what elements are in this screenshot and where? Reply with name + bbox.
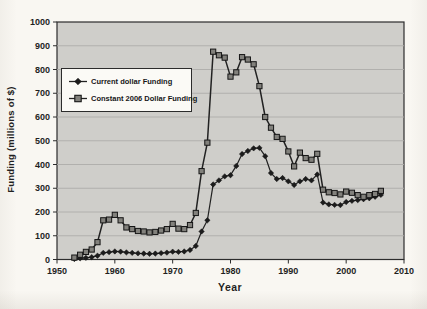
x-tick-label: 1990 xyxy=(278,266,298,276)
legend-label-current-dollar: Current dollar Funding xyxy=(91,77,172,86)
square-marker xyxy=(245,57,250,62)
square-marker xyxy=(349,190,354,195)
y-tick-label: 400 xyxy=(35,160,50,170)
square-marker xyxy=(193,210,198,215)
chart-figure: 0100200300400500600700800900100019501960… xyxy=(0,0,427,309)
square-marker xyxy=(83,249,88,254)
square-marker xyxy=(338,192,343,197)
square-marker-icon xyxy=(69,94,87,103)
legend-label-constant-dollar: Constant 2006 Dollar Funding xyxy=(91,94,197,103)
square-marker xyxy=(112,212,117,217)
square-marker xyxy=(216,53,221,58)
x-axis-title: Year xyxy=(155,281,305,293)
square-marker xyxy=(170,221,175,226)
square-marker xyxy=(118,218,123,223)
y-tick-label: 500 xyxy=(35,136,50,146)
y-tick-label: 700 xyxy=(35,88,50,98)
y-tick-label: 100 xyxy=(35,231,50,241)
legend-entry-constant-dollar: Constant 2006 Dollar Funding xyxy=(69,94,191,103)
square-marker xyxy=(315,151,320,156)
x-tick-label: 1950 xyxy=(47,266,67,276)
square-marker xyxy=(372,191,377,196)
square-marker xyxy=(106,217,111,222)
y-tick-label: 600 xyxy=(35,112,50,122)
square-marker xyxy=(78,252,83,257)
square-marker xyxy=(130,227,135,232)
square-marker xyxy=(378,188,383,193)
square-marker xyxy=(286,149,291,154)
square-marker xyxy=(239,55,244,60)
square-marker xyxy=(251,62,256,67)
square-marker xyxy=(268,125,273,130)
x-tick-label: 1970 xyxy=(163,266,183,276)
square-marker xyxy=(164,227,169,232)
square-marker xyxy=(176,226,181,231)
square-marker xyxy=(332,190,337,195)
square-marker xyxy=(257,84,262,89)
legend-entry-current-dollar: Current dollar Funding xyxy=(69,77,191,86)
square-marker xyxy=(280,136,285,141)
square-marker xyxy=(228,74,233,79)
y-tick-label: 200 xyxy=(35,207,50,217)
plot-canvas: 0100200300400500600700800900100019501960… xyxy=(0,0,427,309)
square-marker xyxy=(159,228,164,233)
square-marker xyxy=(101,218,106,223)
square-marker xyxy=(95,240,100,245)
square-marker xyxy=(263,114,268,119)
square-marker xyxy=(205,140,210,145)
y-tick-label: 0 xyxy=(45,255,50,265)
y-tick-label: 300 xyxy=(35,183,50,193)
square-marker xyxy=(222,55,227,60)
square-marker xyxy=(147,230,152,235)
diamond-marker-icon xyxy=(69,77,87,86)
legend: Current dollar Funding Constant 2006 Dol… xyxy=(61,68,192,112)
square-marker xyxy=(344,189,349,194)
y-tick-label: 1000 xyxy=(30,17,50,27)
y-axis-title: Funding (millions of $) xyxy=(5,70,16,210)
square-marker xyxy=(187,222,192,227)
square-marker xyxy=(72,255,77,260)
square-marker xyxy=(297,150,302,155)
x-tick-label: 1980 xyxy=(220,266,240,276)
y-tick-label: 800 xyxy=(35,65,50,75)
x-tick-label: 2010 xyxy=(394,266,414,276)
square-marker xyxy=(234,70,239,75)
square-marker xyxy=(89,247,94,252)
square-marker xyxy=(309,157,314,162)
square-marker xyxy=(361,194,366,199)
square-marker xyxy=(182,227,187,232)
square-marker xyxy=(141,229,146,234)
square-marker xyxy=(367,193,372,198)
x-tick-label: 2000 xyxy=(336,266,356,276)
square-marker xyxy=(326,190,331,195)
square-marker xyxy=(124,225,129,230)
square-marker xyxy=(211,49,216,54)
square-marker xyxy=(274,134,279,139)
y-tick-label: 900 xyxy=(35,41,50,51)
square-marker xyxy=(153,229,158,234)
square-marker xyxy=(355,193,360,198)
square-marker xyxy=(320,187,325,192)
x-tick-label: 1960 xyxy=(105,266,125,276)
square-marker xyxy=(292,164,297,169)
square-marker xyxy=(135,228,140,233)
square-marker xyxy=(303,155,308,160)
square-marker xyxy=(199,169,204,174)
